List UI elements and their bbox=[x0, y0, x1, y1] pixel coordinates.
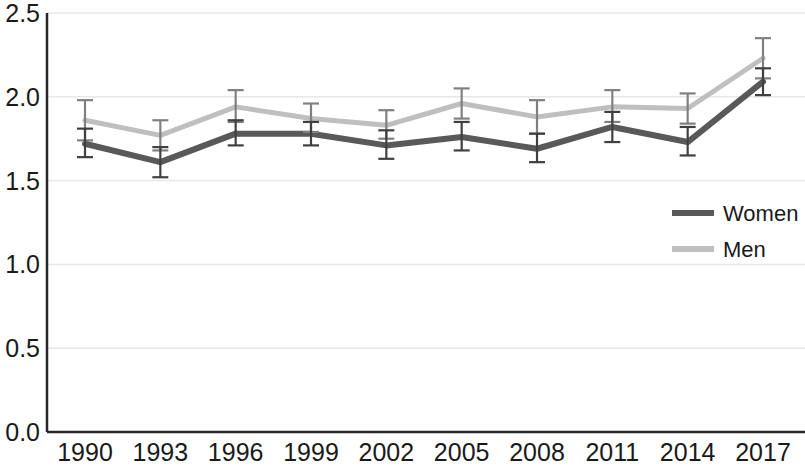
x-axis-tick-label: 2011 bbox=[585, 438, 639, 466]
chart-container: 0.00.51.01.52.02.5 199019931996199920022… bbox=[0, 0, 805, 467]
legend-item-women: Women bbox=[672, 201, 798, 226]
x-axis-tick-label: 1996 bbox=[208, 438, 264, 466]
x-axis-tick-label: 2005 bbox=[434, 438, 490, 466]
series-women bbox=[85, 82, 763, 162]
axes-group bbox=[47, 13, 805, 432]
legend-label: Men bbox=[723, 237, 766, 262]
y-axis-tick-label: 2.5 bbox=[5, 0, 40, 27]
y-axis-tick-label: 2.0 bbox=[5, 83, 40, 111]
x-axis-tick-label: 2017 bbox=[735, 438, 791, 466]
x-axis-tick-label: 2008 bbox=[509, 438, 565, 466]
y-axis-tick-label: 0.0 bbox=[5, 418, 40, 446]
x-axis-tick-label: 1990 bbox=[57, 438, 113, 466]
series-line-women bbox=[85, 82, 763, 162]
line-chart: 0.00.51.01.52.02.5 199019931996199920022… bbox=[0, 0, 805, 467]
legend-label: Women bbox=[723, 201, 798, 226]
y-axis-tick-labels: 0.00.51.01.52.02.5 bbox=[5, 0, 40, 446]
y-axis-tick-label: 0.5 bbox=[5, 334, 40, 362]
error-bars-women bbox=[77, 68, 771, 177]
x-axis-tick-label: 2002 bbox=[359, 438, 415, 466]
x-axis-tick-label: 1993 bbox=[133, 438, 189, 466]
gridlines-group bbox=[47, 13, 805, 348]
error-bar bbox=[755, 68, 771, 95]
legend-item-men: Men bbox=[672, 237, 766, 262]
x-axis-tick-label: 2014 bbox=[660, 438, 716, 466]
chart-legend: WomenMen bbox=[672, 201, 798, 262]
y-axis-tick-label: 1.0 bbox=[5, 250, 40, 278]
error-bars-men bbox=[77, 38, 771, 150]
y-axis-tick-label: 1.5 bbox=[5, 167, 40, 195]
x-axis-tick-label: 1999 bbox=[283, 438, 339, 466]
x-axis-tick-labels: 1990199319961999200220052008201120142017 bbox=[57, 438, 791, 466]
